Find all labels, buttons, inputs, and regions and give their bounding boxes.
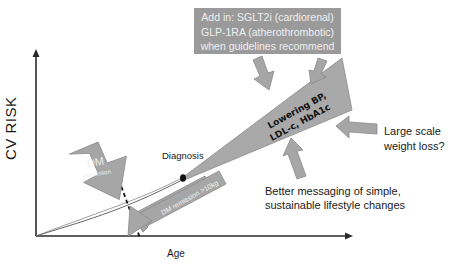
x-axis-label: Age bbox=[167, 248, 185, 259]
weight-loss-line-2: weight loss? bbox=[384, 139, 445, 154]
weight-loss-line-1: Large scale bbox=[384, 124, 445, 139]
weight-loss-label: Large scale weight loss? bbox=[384, 124, 445, 154]
diagnosis-label: Diagnosis bbox=[162, 150, 204, 161]
add-in-line-2: GLP-1RA (atherothrombotic) bbox=[194, 25, 341, 40]
weight-loss-arrow bbox=[336, 116, 377, 138]
messaging-line-2: sustainable lifestyle changes bbox=[265, 198, 405, 212]
add-in-line-1: Add in: SGLT2i (cardiorenal) bbox=[194, 10, 341, 25]
diagnosis-point-icon bbox=[180, 174, 186, 182]
add-in-arrow-left bbox=[253, 56, 274, 90]
y-axis-label: CV RISK bbox=[2, 80, 19, 160]
x-axis-arrowhead-icon bbox=[345, 233, 353, 240]
messaging-line-1: Better messaging of simple, bbox=[265, 184, 405, 198]
messaging-label: Better messaging of simple, sustainable … bbox=[265, 184, 405, 212]
add-in-line-3: when guidelines recommend bbox=[194, 39, 341, 54]
lifestyle-arrow bbox=[283, 138, 306, 179]
y-axis-arrowhead-icon bbox=[33, 49, 40, 57]
add-in-callout-box: Add in: SGLT2i (cardiorenal) GLP-1RA (at… bbox=[194, 8, 341, 54]
